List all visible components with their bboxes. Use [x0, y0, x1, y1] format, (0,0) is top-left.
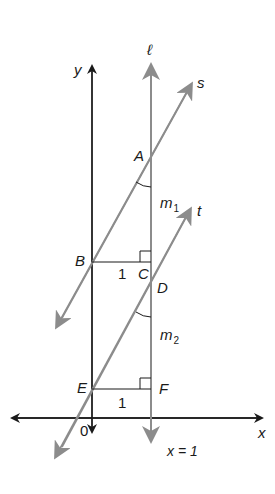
angle-m1-label: m1 [160, 195, 179, 210]
right-angle-f [140, 378, 151, 389]
m1-letter: m [160, 194, 173, 211]
angle-arc-m2 [136, 312, 151, 317]
point-e-label: E [77, 380, 87, 395]
m1-subscript: 1 [174, 203, 180, 214]
point-b-label: B [75, 253, 85, 268]
line-t-label: t [197, 203, 201, 218]
segment-bc-length: 1 [118, 266, 126, 281]
x-axis-label: x [258, 425, 266, 440]
m2-letter: m [160, 326, 173, 343]
right-angle-c [140, 251, 151, 262]
m2-subscript: 2 [174, 335, 180, 346]
angle-arc-m1 [136, 182, 151, 187]
point-a-label: A [134, 148, 144, 163]
line-s-label: s [197, 75, 205, 90]
point-c-label: C [138, 266, 149, 281]
line-l-equation: x = 1 [167, 444, 198, 458]
origin-label: 0 [80, 423, 88, 438]
y-axis-label: y [74, 62, 82, 77]
angle-m2-label: m2 [160, 327, 179, 342]
point-d-label: D [157, 280, 168, 295]
line-l-label: ℓ [147, 42, 152, 57]
diagram-canvas [0, 0, 275, 494]
point-f-label: F [159, 381, 168, 396]
segment-ef-length: 1 [118, 395, 126, 410]
